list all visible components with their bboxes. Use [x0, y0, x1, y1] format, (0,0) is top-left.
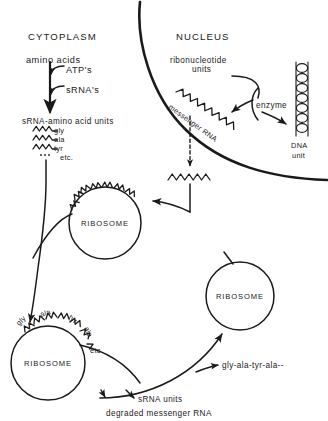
messenger-rna-label: messenger RNA	[167, 102, 219, 143]
srna-item-ala-label: ala	[54, 135, 65, 144]
srna-label: sRNA's	[66, 85, 99, 95]
dna-label-line1: DNA	[291, 141, 308, 150]
diagram-labels: CYTOPLASM amino acids ATP's sRNA's sRNA-…	[0, 0, 328, 421]
ribosome-lower-left-label: RIBOSOME	[24, 359, 72, 368]
srna-item-gly-label: gly	[54, 126, 64, 135]
enzyme-label: enzyme	[256, 101, 287, 110]
protein-synthesis-diagram: CYTOPLASM amino acids ATP's sRNA's sRNA-…	[0, 0, 328, 421]
peptide-residue-ala2-label: ala	[82, 325, 95, 339]
ribosome-center-right-label: RIBOSOME	[216, 292, 264, 301]
degraded-mrna-label: degraded messenger RNA	[106, 409, 212, 418]
peptide-residue-tyr-label: tyr	[67, 313, 80, 326]
atp-label: ATP's	[66, 65, 92, 75]
peptide-residue-ala-label: ala	[39, 307, 52, 319]
polypeptide-product-label: gly-ala-tyr-ala--	[222, 361, 284, 370]
nucleus-section-label: NUCLEUS	[176, 31, 230, 42]
peptide-residue-gly-label: gly	[14, 314, 28, 328]
ribonucleotide-label-line2: units	[192, 65, 211, 74]
amino-acids-label: amino acids	[26, 55, 81, 65]
srna-item-tyr-label: tyr	[54, 144, 63, 153]
peptide-etc-label: etc.	[90, 346, 103, 355]
srna-units-product-label: sRNA units	[138, 395, 183, 404]
cytoplasm-section-label: CYTOPLASM	[28, 31, 97, 42]
srna-etc-label: etc.	[60, 153, 73, 162]
ribonucleotide-label-line1: ribonucleotide	[170, 56, 227, 65]
dna-label-line2: unit	[292, 151, 305, 160]
ribosome-upper-left-label: RIBOSOME	[81, 219, 129, 228]
srna-amino-acid-units-label: sRNA-amino acid units	[22, 117, 114, 126]
